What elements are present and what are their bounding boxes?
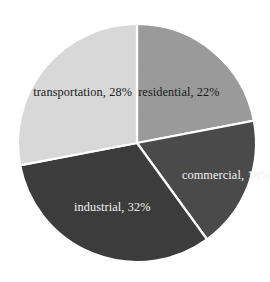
- pie-slice-label-industrial: industrial, 32%: [74, 200, 151, 214]
- pie-slice-label-residential: residential, 22%: [138, 85, 220, 99]
- pie-slice-label-transportation: transportation, 28%: [33, 85, 132, 99]
- pie-slice-label-commercial: commercial, 18%: [182, 168, 270, 182]
- pie-chart-svg: residential, 22%commercial, 18%industria…: [0, 0, 270, 282]
- pie-chart-figure: residential, 22%commercial, 18%industria…: [0, 0, 270, 282]
- pie-slices-group: [18, 24, 256, 262]
